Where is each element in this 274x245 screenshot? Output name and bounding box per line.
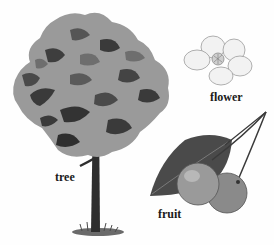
fruit-label: fruit [158,208,181,220]
flower-label: flower [210,91,243,103]
plant-parts-diagram: tree flower fruit [0,0,274,245]
flower-petal [209,67,233,85]
flower-illustration [184,36,252,85]
fruit-cherry-front [177,163,219,205]
tree-canopy [13,13,169,157]
fruit-stem [238,112,266,180]
fruit-illustration [150,112,266,213]
illustration-canvas [0,0,274,245]
tree-label: tree [55,171,75,183]
flower-petal [184,50,210,70]
tree-illustration [13,13,169,236]
